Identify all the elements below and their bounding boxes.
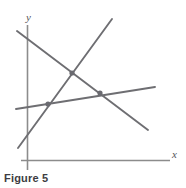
coordinate-plot: x y [0,0,186,188]
falling-line [17,31,148,130]
left-intersection-dot [45,101,50,106]
figure-caption: Figure 5 [4,172,48,185]
rising-shallow-line [16,87,155,109]
right-intersection-dot [97,90,102,95]
x-axis-label: x [171,148,177,160]
y-axis-label: y [25,11,31,23]
top-intersection-dot [69,70,74,75]
figure-container: x y Figure 5 [0,0,186,188]
rising-steep-line [18,19,112,148]
